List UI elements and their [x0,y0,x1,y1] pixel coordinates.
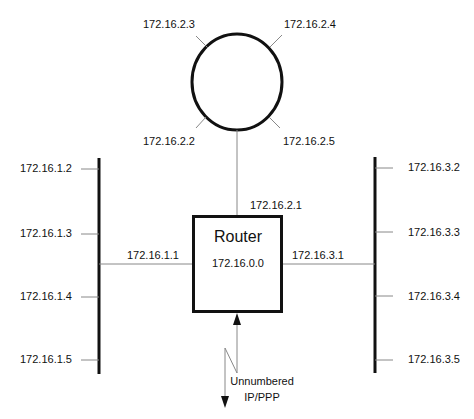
network-diagram: 172.16.2.3 172.16.2.4 172.16.2.2 172.16.… [0,0,474,419]
router-ring-interface-label: 172.16.2.1 [250,200,302,211]
right-host-label: 172.16.3.5 [408,354,460,365]
wan-arrow-down-icon [221,396,229,408]
token-ring [192,34,282,130]
ring-host-label: 172.16.2.4 [284,19,336,30]
wan-arrow-up-icon [233,313,241,325]
right-host-label: 172.16.3.4 [408,291,460,302]
left-host-label: 172.16.1.3 [20,228,72,239]
left-host-label: 172.16.1.2 [20,163,72,174]
ring-stub-2-5 [269,117,280,128]
ring-stub-2-2 [196,117,206,128]
router-title: Router [214,229,262,245]
router-network-label: 172.16.0.0 [212,258,264,269]
wan-label: Unnumbered IP/PPP [230,373,294,405]
router-right-interface-label: 172.16.3.1 [292,250,344,261]
ring-host-label: 172.16.2.3 [143,19,195,30]
left-host-label: 172.16.1.4 [20,291,72,302]
wan-label-line2: IP/PPP [230,389,294,405]
ring-host-label: 172.16.2.2 [143,136,195,147]
ring-stub-2-3 [196,36,208,48]
right-host-label: 172.16.3.2 [408,162,460,173]
ring-host-label: 172.16.2.5 [283,136,335,147]
ring-stub-2-4 [270,35,282,47]
left-host-label: 172.16.1.5 [20,354,72,365]
right-host-label: 172.16.3.3 [408,227,460,238]
wan-label-line1: Unnumbered [230,373,294,389]
router-left-interface-label: 172.16.1.1 [127,250,179,261]
